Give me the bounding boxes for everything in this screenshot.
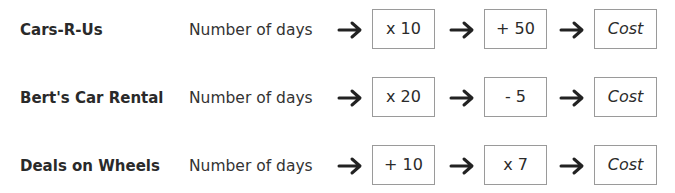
- output-cost-box: Cost: [594, 9, 657, 49]
- company-name: Deals on Wheels: [20, 145, 160, 187]
- input-label: Number of days: [189, 9, 313, 51]
- right-arrow-icon: [559, 77, 585, 119]
- step-2-box: + 50: [484, 9, 547, 49]
- row-deals-on-wheels: Deals on Wheels Number of days + 10 x 7 …: [0, 145, 675, 187]
- right-arrow-icon: [559, 9, 585, 51]
- step-1-box: x 10: [372, 9, 435, 49]
- right-arrow-icon: [449, 145, 475, 187]
- right-arrow-icon: [449, 77, 475, 119]
- right-arrow-icon: [449, 9, 475, 51]
- step-1-box: + 10: [372, 145, 435, 185]
- step-2-box: x 7: [484, 145, 547, 185]
- right-arrow-icon: [559, 145, 585, 187]
- row-berts-car-rental: Bert's Car Rental Number of days x 20 - …: [0, 77, 675, 119]
- input-label: Number of days: [189, 145, 313, 187]
- company-name: Bert's Car Rental: [20, 77, 164, 119]
- step-2-box: - 5: [484, 77, 547, 117]
- right-arrow-icon: [337, 9, 363, 51]
- right-arrow-icon: [337, 77, 363, 119]
- output-cost-box: Cost: [594, 77, 657, 117]
- right-arrow-icon: [337, 145, 363, 187]
- output-cost-box: Cost: [594, 145, 657, 185]
- step-1-box: x 20: [372, 77, 435, 117]
- row-cars-r-us: Cars-R-Us Number of days x 10 + 50 Cost: [0, 9, 675, 51]
- company-name: Cars-R-Us: [20, 9, 103, 51]
- input-label: Number of days: [189, 77, 313, 119]
